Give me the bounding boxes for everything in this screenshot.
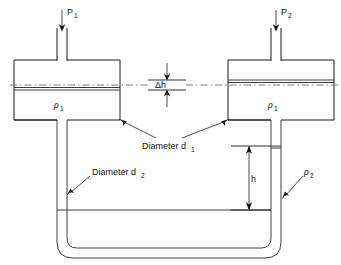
rho-right-sub: 1 [274, 105, 278, 112]
left-inlet-group: P 1 [57, 7, 78, 61]
manometer-svg-canvas: P 1 P 2 ρ 1 [0, 0, 341, 265]
diameter-d2-label: Diameter d [92, 167, 136, 177]
delta-h-dimension-group: Δh [148, 63, 186, 107]
pressure-left-label: P [67, 7, 73, 17]
delta-h-label: Δh [155, 80, 166, 90]
rho2-leader [285, 176, 303, 196]
diameter-d2-annotation: Diameter d 2 [66, 167, 145, 196]
h-dimension-group: h [231, 146, 271, 211]
rho2-annotation: ρ 2 [282, 166, 314, 199]
h-label: h [251, 174, 256, 184]
right-chamber-group: ρ 1 [228, 60, 334, 120]
diameter-d1-label: Diameter d [142, 141, 186, 151]
left-tube-group [57, 120, 67, 212]
diameter-d2-leader [70, 176, 90, 193]
diameter-d1-leader-right [182, 121, 226, 138]
diameter-d1-annotation: Diameter d 1 [118, 119, 230, 153]
u-bend-outer-wall [57, 212, 281, 258]
u-bend-inner-wall [67, 212, 271, 248]
pressure-right-sub: 2 [288, 12, 292, 19]
right-tube-group [271, 120, 281, 212]
right-inlet-group: P 2 [271, 7, 292, 61]
pressure-left-sub: 1 [74, 12, 78, 19]
right-chamber-outline [228, 60, 334, 120]
left-chamber-group: ρ 1 [14, 60, 120, 120]
diameter-d2-sub: 2 [141, 172, 145, 179]
diameter-d1-sub: 1 [191, 146, 195, 153]
rho-right-label: ρ [267, 99, 273, 110]
manometer-diagram: P 1 P 2 ρ 1 [0, 0, 341, 265]
rho-left-sub: 1 [60, 105, 64, 112]
rho-bottom-sub: 2 [310, 172, 314, 179]
rho-bottom-label: ρ [303, 166, 309, 177]
diameter-d1-leader-left [122, 121, 156, 138]
pressure-right-label: P [281, 7, 287, 17]
u-bend-group [57, 212, 281, 258]
rho-left-label: ρ [53, 99, 59, 110]
